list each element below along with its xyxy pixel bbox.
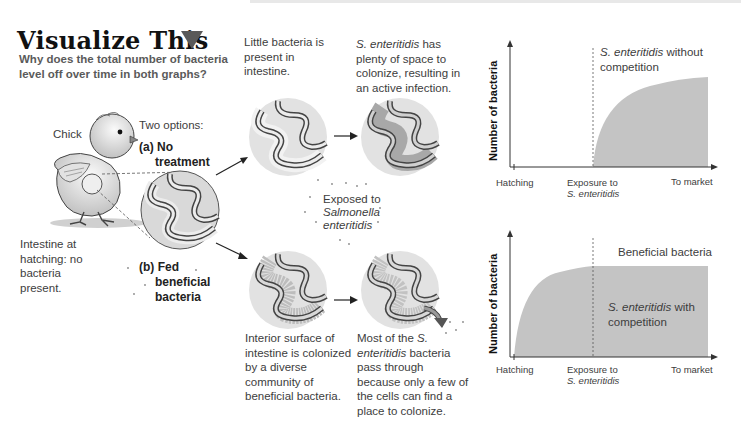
caption-pass-through: Most of the S. enteritidis bacteria pass… <box>357 331 469 418</box>
graph2-annotation-beneficial: Beneficial bacteria <box>618 245 712 260</box>
graph2-tick-hatching: Hatching <box>496 364 534 375</box>
caption-little-bacteria: Little bacteria is present in intestine. <box>244 35 334 79</box>
graph1-tick-market: To market <box>671 176 713 187</box>
graph2-annotation-competition: S. enteritidis with competition <box>608 300 708 329</box>
intestine-circle-b1-colonized <box>248 250 328 330</box>
graph2-tick-market: To market <box>671 364 713 375</box>
graph1-tick-hatching: Hatching <box>496 177 534 188</box>
caption-colonized: Interior surface of intestine is coloniz… <box>245 331 355 404</box>
graph2-y-axis-label: Number of bacteria <box>487 254 499 354</box>
two-options-label: Two options: <box>139 118 204 133</box>
intestine-caption: Intestine at hatching: no bacteria prese… <box>20 237 100 295</box>
caption-active-infection: S. enteritidis has plenty of space to co… <box>356 37 466 95</box>
intestine-circle-b2-passthrough <box>360 250 460 330</box>
option-a-label: (a) No treatment <box>139 140 210 170</box>
graph1-y-axis-label: Number of bacteria <box>487 61 499 161</box>
graph1-tick-exposure: Exposure toS. enteritidis <box>567 177 627 199</box>
intestine-circle-initial <box>140 170 220 250</box>
intestine-circle-a2-infected <box>360 97 440 177</box>
graph1-annotation: S. enteritidis without competition <box>600 45 720 74</box>
graph2-tick-exposure: Exposure toS. enteritidis <box>567 364 627 386</box>
option-b-label: (b) Fed beneficial bacteria <box>139 260 210 305</box>
caption-exposed-salmonella: Exposed to Salmonella enteritidis <box>323 193 403 232</box>
intestine-circle-a1 <box>248 97 328 177</box>
